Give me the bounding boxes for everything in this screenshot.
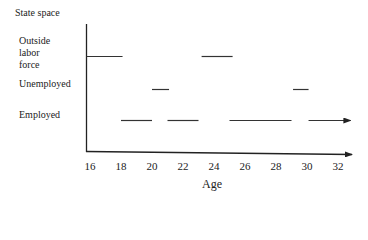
x-tick-label: 32 — [333, 160, 344, 172]
x-tick-label: 22 — [178, 160, 189, 172]
x-axis — [86, 152, 352, 155]
x-tick-label: 24 — [209, 160, 220, 172]
x-axis-title: Age — [202, 178, 222, 190]
x-tick-label: 20 — [147, 160, 158, 172]
state-segments — [87, 57, 351, 121]
x-tick-label: 30 — [302, 160, 313, 172]
x-tick-label: 26 — [240, 160, 251, 172]
x-tick-label: 18 — [116, 160, 127, 172]
x-tick-label: 28 — [271, 160, 282, 172]
x-tick-label: 16 — [85, 160, 96, 172]
